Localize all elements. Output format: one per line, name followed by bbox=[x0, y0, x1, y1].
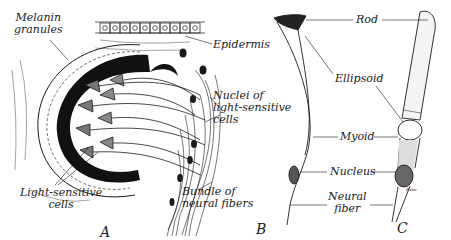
panel-label-a: A bbox=[100, 224, 110, 240]
label-line: cells bbox=[213, 114, 291, 126]
panel-label-b: B bbox=[256, 221, 266, 237]
label-melanin-granules: Melanin granules bbox=[14, 12, 63, 36]
panel-label-c: C bbox=[397, 220, 408, 236]
label-line: cells bbox=[20, 199, 102, 211]
label-line: neural fibers bbox=[182, 198, 253, 210]
label-epidermis: Epidermis bbox=[213, 39, 270, 51]
label-rod: Rod bbox=[356, 14, 378, 26]
label-myoid: Myoid bbox=[340, 131, 375, 143]
label-neural-fiber: Neural fiber bbox=[328, 191, 367, 215]
light-sensitive-cells bbox=[76, 74, 205, 175]
label-bundle-of-neural-fibers: Bundle of neural fibers bbox=[182, 186, 253, 210]
artist-signature: Bunn bbox=[406, 187, 417, 192]
label-light-sensitive-cells: Light-sensitive cells bbox=[20, 187, 102, 211]
label-ellipsoid: Ellipsoid bbox=[335, 73, 383, 85]
label-line: fiber bbox=[328, 203, 367, 215]
label-nucleus: Nucleus bbox=[330, 166, 376, 178]
label-line: granules bbox=[14, 24, 63, 36]
label-nuclei-of-light-sensitive-cells: Nuclei of light-sensitive cells bbox=[213, 90, 291, 126]
